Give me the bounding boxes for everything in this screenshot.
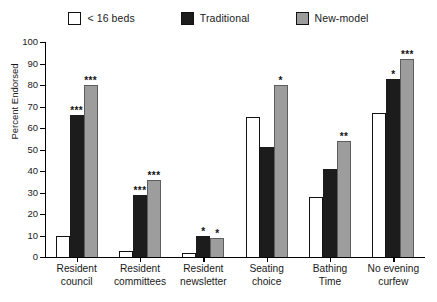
bar [56,236,70,258]
y-axis-tick-label: 20 [11,209,38,219]
bar [372,113,386,257]
y-axis-tick-label: 100 [11,37,38,47]
black-square-swatch-icon [181,12,194,25]
white-square-swatch-icon [68,12,81,25]
x-axis-line [45,257,425,258]
y-axis-tick [40,236,45,237]
y-axis-tick-label: 70 [11,102,38,112]
legend-label: < 16 beds [87,12,134,24]
y-axis-tick-label: 30 [11,188,38,198]
bar: *** [84,85,98,257]
category-label-line: curfew [354,275,432,288]
y-axis-tick [40,85,45,86]
y-axis-tick [40,107,45,108]
significance-marker: * [391,71,395,79]
y-axis-tick [40,257,45,258]
y-axis-tick-label: 80 [11,80,38,90]
y-axis-tick [40,64,45,65]
significance-marker: *** [84,77,97,85]
significance-marker: *** [70,107,83,115]
bar: * [386,79,400,257]
bar: ** [337,141,351,257]
plot-area: 0102030405060708090100 *****************… [45,42,425,257]
y-axis-line [45,42,46,257]
bar [246,117,260,257]
bar: * [196,236,210,258]
bar [182,253,196,257]
y-axis-tick [40,171,45,172]
bar [260,147,274,257]
chart-legend: < 16 beds Traditional New-model [0,8,437,28]
y-axis-tick-label: 50 [11,145,38,155]
bar: *** [400,59,414,257]
y-axis-tick [40,150,45,151]
bar [119,251,133,257]
gray-square-swatch-icon [296,12,309,25]
bar-chart: < 16 beds Traditional New-model Percent … [0,0,437,302]
significance-marker: * [215,230,219,238]
y-axis-tick-label: 10 [11,231,38,241]
y-axis-tick-label: 90 [11,59,38,69]
significance-marker: *** [148,172,161,180]
x-axis-category-label: No eveningcurfew [354,262,432,288]
y-axis-tick [40,193,45,194]
y-axis-tick [40,42,45,43]
legend-item-traditional: Traditional [181,12,250,25]
bar: * [210,238,224,257]
significance-marker: *** [401,51,414,59]
y-axis-tick [40,214,45,215]
legend-label: Traditional [200,12,250,24]
bar: *** [133,195,147,257]
bar: *** [70,115,84,257]
y-axis-tick-label: 60 [11,123,38,133]
bar: *** [147,180,161,257]
x-axis-category-labels: ResidentcouncilResidentcommitteesResiden… [45,262,425,302]
bar: * [274,85,288,257]
significance-marker: *** [134,187,147,195]
category-label-line: No evening [354,262,432,275]
bar [323,169,337,257]
significance-marker: * [279,77,283,85]
y-axis-tick-label: 0 [11,252,38,262]
legend-label: New-model [315,12,369,24]
significance-marker: ** [340,133,349,141]
significance-marker: * [201,228,205,236]
legend-item-new-model: New-model [296,12,369,25]
y-axis-tick-label: 40 [11,166,38,176]
bar [309,197,323,257]
y-axis-tick [40,128,45,129]
legend-item-less-than-16-beds: < 16 beds [68,12,134,25]
